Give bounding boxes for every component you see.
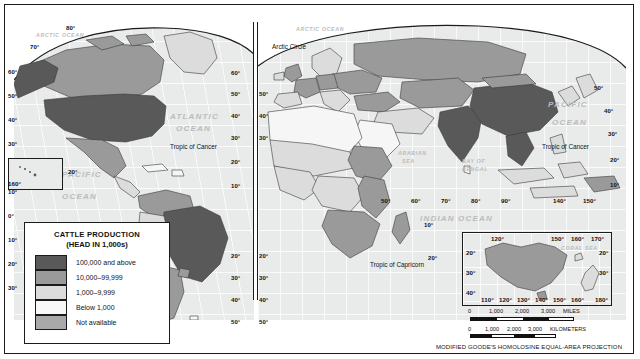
inset-lon-bottom-180: 180° [595,296,608,303]
legend-swatch [35,255,67,270]
lat-label-left-0: 0° [8,213,14,219]
label-tropic-of-cancer-east: Tropic of Cancer [542,143,589,150]
lat-label-seame-30: 30° [259,135,268,141]
lat-label-right-20: 20° [610,157,619,163]
lat-label-left-50: 50° [8,93,17,99]
lat-label-seame-40: 40° [259,113,268,119]
lat-label-seamw-50: 50° [231,91,240,97]
australia-landmass [463,233,611,305]
ocean-label-arctic-west: ARCTIC OCEAN [36,32,84,38]
ocean-label-pacific-west-2: OCEAN [62,192,97,201]
lat-label-right-30: 30° [608,131,617,137]
lon-label-50: 50° [381,197,391,204]
lat-label-indian-20: 20° [428,255,437,261]
lat-label-right-10: 10° [610,182,619,188]
lat-label-seame-50s: 50° [259,319,268,325]
legend-label: 100,000 and above [76,259,136,266]
inset-lon-160: 160° [571,235,584,242]
inset-lon-170: 170° [591,235,604,242]
legend-row: Below 1,000 [35,300,169,315]
lon-label-60: 60° [411,197,421,204]
lat-label-seamw-60: 60° [231,70,240,76]
lat-label-seame-30s: 30° [259,275,268,281]
lat-label-seamw-20: 20° [231,159,240,165]
lat-label-seamw-30: 30° [231,135,240,141]
legend-label: Not available [76,319,116,326]
scale-bar-miles [470,317,574,321]
scale-tick-km-3000: 3,000 [528,326,542,332]
lat-label-seamw-50s: 50° [231,319,240,325]
lat-label-seamw-40s: 40° [231,297,240,303]
ocean-label-arctic-east: ARCTIC OCEAN [296,26,344,32]
legend-title-line1: CATTLE PRODUCTION [25,223,169,239]
legend-swatch [35,270,67,285]
legend-row: 100,000 and above [35,255,169,270]
ocean-label-indian-2: OCEAN [458,214,493,223]
legend-row: Not available [35,315,169,330]
lat-label-left-60: 60° [8,69,17,75]
australia-inset: 120° 150° 160° 170° 20° 30° 40° 20° 30° … [462,232,612,306]
scale-tick-miles-3000: 3,000 [541,308,555,314]
lon-label-90: 90° [501,197,511,204]
lat-label-left-10s: 10° [8,237,17,243]
lat-label-left-40: 40° [8,117,17,123]
map-legend: CATTLE PRODUCTION (HEAD IN 1,000s) 100,0… [24,222,170,344]
inset-lon-bottom-150: 150° [553,296,566,303]
scale-tick-miles-2000: 2,000 [515,308,529,314]
label-tropic-of-cancer-west: Tropic of Cancer [170,143,217,150]
legend-title-line2: (HEAD IN 1,000s) [25,239,169,249]
inset-lat-right-20: 20° [599,249,609,256]
inset-lat-left-40: 40° [466,289,476,296]
legend-row: 10,000–99,999 [35,270,169,285]
inset-lon-bottom-160: 160° [571,296,584,303]
inset-lon-120: 120° [491,235,504,242]
inset-lat-left-30: 30° [466,269,476,276]
lon-label-150: 150° [583,197,596,204]
lat-label-left-30s: 30° [8,285,17,291]
lat-label-indian-10: 10° [424,222,433,228]
legend-entries: 100,000 and above 10,000–99,999 1,000–9,… [35,255,169,330]
lat-label-left-30: 30° [8,141,17,147]
label-tropic-of-capricorn: Tropic of Capricorn [370,261,424,268]
label-arctic-circle: Arctic Circle [272,43,306,50]
scale-unit-miles: MILES [563,308,580,314]
legend-swatch [35,285,67,300]
scale-tick-miles-1000: 1,000 [489,308,503,314]
ocean-label-coral-sea: CORAL SEA [561,245,598,251]
ocean-label-bay-of-bengal: BAY OF [462,158,485,164]
lon-label-80: 80° [471,197,481,204]
lon-label-hawaii-160: 160° [8,180,21,187]
ocean-label-atlantic-2: OCEAN [176,124,211,133]
lat-label-seamw-40: 40° [231,113,240,119]
inset-lat-left-20: 20° [466,249,476,256]
legend-label: 1,000–9,999 [76,289,115,296]
cattle-production-map: ARCTIC OCEAN ARCTIC OCEAN ATLANTIC OCEAN… [0,0,640,359]
scale-tick-km-1000: 1,000 [485,326,499,332]
lon-label-70: 70° [441,197,451,204]
scale-bar-kilometers [470,334,556,338]
lobe-seam [253,22,258,300]
inset-lon-bottom-130: 130° [517,296,530,303]
ocean-label-atlantic: ATLANTIC [170,112,219,121]
lat-label-seamw-10: 10° [231,183,240,189]
lat-label-right-40: 40° [604,108,613,114]
legend-label: Below 1,000 [76,304,115,311]
lat-label-seamw-20s: 20° [231,253,240,259]
lat-label-seame-20s: 20° [259,253,268,259]
ocean-label-pacific-east: PACIFIC [548,100,588,109]
inset-lon-150: 150° [551,235,564,242]
ocean-label-bay-of-bengal-2: BENGAL [462,166,488,172]
lat-label-left-20s: 20° [8,261,17,267]
inset-lon-bottom-140: 140° [535,296,548,303]
inset-lat-right-30: 30° [599,269,609,276]
scale-tick-km-2000: 2,000 [507,326,521,332]
projection-note: MODIFIED GOODE'S HOMOLOSINE EQUAL-AREA P… [436,344,622,350]
lat-label-seame-50: 50° [259,91,268,97]
scale-tick-km-0: 0 [468,326,471,332]
lon-label-140: 140° [553,197,566,204]
lat-label-seamw-30s: 30° [231,275,240,281]
lat-label-left-70: 70° [30,44,39,50]
lat-label-left-80: 80° [66,25,75,31]
scale-unit-kilometers: KILOMETERS [550,326,586,332]
scale-tick-miles-0: 0 [468,308,471,314]
